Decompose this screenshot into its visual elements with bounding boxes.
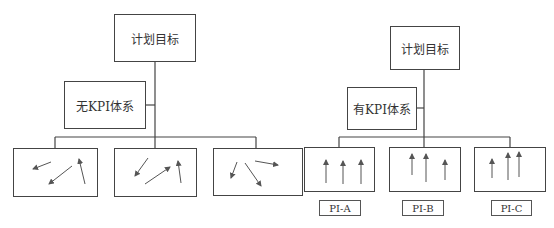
right-plan-goal-label: 计划目标 <box>401 40 449 57</box>
right-plan-goal-box: 计划目标 <box>390 26 460 70</box>
pi-c-box <box>474 147 546 192</box>
left-plan-goal-label: 计划目标 <box>131 30 179 47</box>
pi-b-label: PI-B <box>402 200 444 216</box>
no-kpi-system-label: 无KPI体系 <box>76 97 134 114</box>
kpi-system-box: 有KPI体系 <box>347 87 417 130</box>
pi-b-box <box>389 147 461 192</box>
no-kpi-system-box: 无KPI体系 <box>64 81 146 129</box>
left-child-box-3 <box>213 148 303 196</box>
kpi-comparison-diagram: 计划目标 无KPI体系 计划目标 有KPI体系 PI-A PI-B PI-C <box>0 0 554 228</box>
left-child-box-1 <box>13 148 98 197</box>
pi-a-box <box>304 147 375 192</box>
left-plan-goal-box: 计划目标 <box>114 14 196 62</box>
left-child-box-2 <box>114 148 197 197</box>
kpi-system-label: 有KPI体系 <box>353 100 411 117</box>
pi-a-label: PI-A <box>319 200 361 216</box>
pi-c-label: PI-C <box>491 200 532 216</box>
